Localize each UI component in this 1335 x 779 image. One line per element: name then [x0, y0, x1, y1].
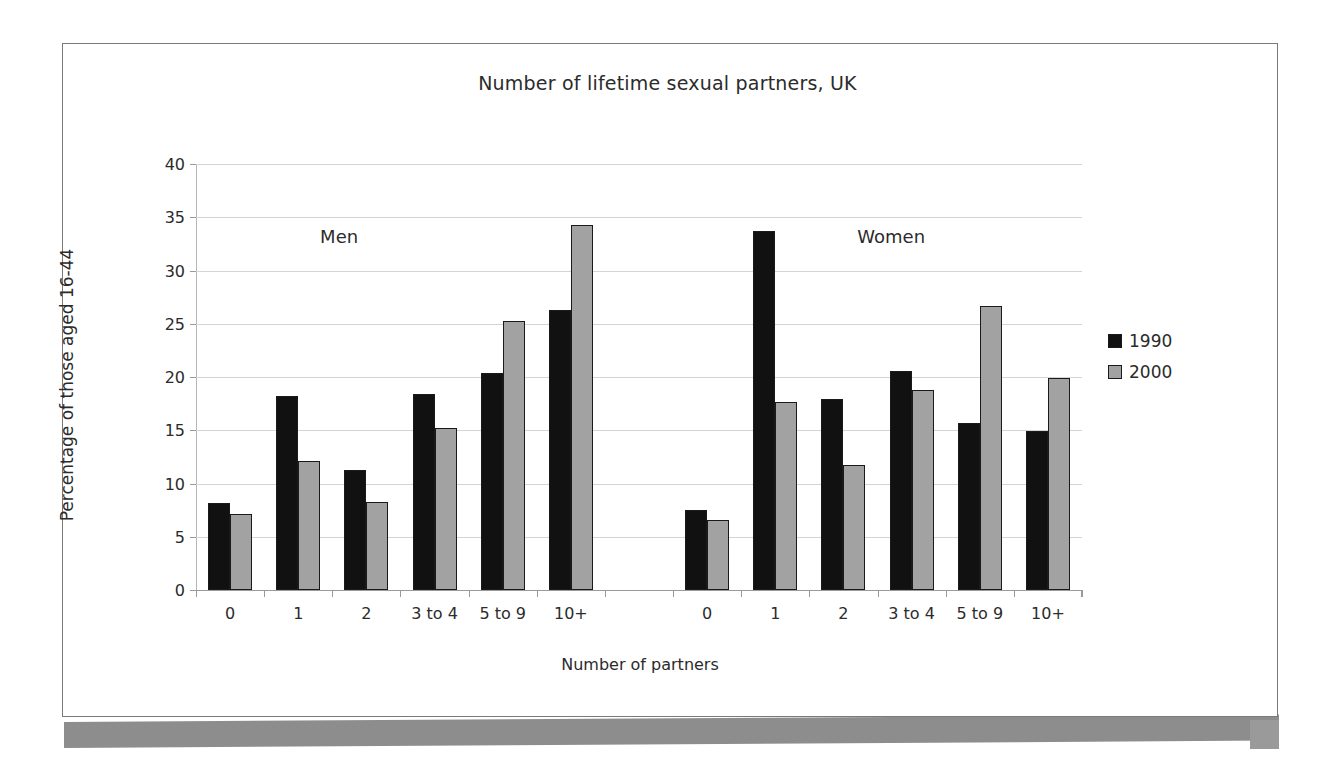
x-tick-mark — [469, 590, 470, 597]
plot-area: 0510152025303540 0123 to 45 to 910+0123 … — [196, 164, 1082, 590]
legend-label: 2000 — [1129, 362, 1172, 382]
x-tick-mark — [332, 590, 333, 597]
y-tick-mark — [190, 537, 196, 538]
y-tick-mark — [190, 484, 196, 485]
bar-men-2-1990 — [344, 470, 366, 590]
y-tick-label: 20 — [165, 368, 185, 387]
bar-women-5-to-9-2000 — [980, 306, 1002, 590]
x-tick-label: 2 — [361, 604, 371, 623]
gridline — [196, 537, 1082, 538]
bar-women-3-to-4-1990 — [890, 371, 912, 590]
legend-label: 1990 — [1129, 331, 1172, 351]
scan-shadow-band — [64, 715, 1279, 748]
gridline — [196, 377, 1082, 378]
x-tick-label: 10+ — [1031, 604, 1065, 623]
bar-women-10+-2000 — [1048, 378, 1070, 590]
x-tick-mark — [878, 590, 879, 597]
x-tick-mark — [196, 590, 197, 597]
x-tick-label: 1 — [293, 604, 303, 623]
legend-item-1990[interactable]: 1990 — [1108, 332, 1172, 350]
bar-men-3-to-4-2000 — [435, 428, 457, 590]
gridline — [196, 324, 1082, 325]
y-tick-mark — [190, 271, 196, 272]
gridline — [196, 430, 1082, 431]
bar-men-1-2000 — [298, 461, 320, 590]
panel-caption-men: Men — [320, 226, 358, 247]
chart-legend: 19902000 — [1108, 332, 1172, 394]
x-tick-label: 5 to 9 — [956, 604, 1003, 623]
x-tick-mark — [809, 590, 810, 597]
y-axis-title: Percentage of those aged 16-44 — [57, 225, 77, 545]
y-tick-label: 25 — [165, 314, 185, 333]
y-tick-mark — [190, 217, 196, 218]
x-tick-mark — [1014, 590, 1015, 597]
x-tick-mark — [537, 590, 538, 597]
bar-women-1-1990 — [753, 231, 775, 590]
y-tick-label: 0 — [175, 581, 185, 600]
x-tick-mark — [400, 590, 401, 597]
x-tick-label: 3 to 4 — [888, 604, 935, 623]
bar-women-10+-1990 — [1026, 431, 1048, 590]
bar-men-1-1990 — [276, 396, 298, 590]
bar-men-3-to-4-1990 — [413, 394, 435, 590]
x-tick-mark — [1081, 590, 1082, 597]
x-tick-label: 0 — [702, 604, 712, 623]
gridline — [196, 590, 1082, 591]
x-tick-mark — [1082, 590, 1083, 597]
x-axis-title: Number of partners — [190, 655, 1090, 674]
scan-shadow-edge — [1250, 720, 1279, 749]
y-tick-mark — [190, 430, 196, 431]
bar-women-0-1990 — [685, 510, 707, 590]
bar-men-2-2000 — [366, 502, 388, 590]
y-tick-mark — [190, 377, 196, 378]
gridline — [196, 271, 1082, 272]
gridline — [196, 164, 1082, 165]
legend-swatch-icon — [1108, 365, 1122, 379]
legend-item-2000[interactable]: 2000 — [1108, 363, 1172, 381]
x-tick-mark — [264, 590, 265, 597]
x-tick-label: 3 to 4 — [411, 604, 458, 623]
bar-men-5-to-9-2000 — [503, 321, 525, 590]
bar-women-0-2000 — [707, 520, 729, 590]
x-tick-mark — [673, 590, 674, 597]
bar-men-10+-2000 — [571, 225, 593, 590]
bar-men-5-to-9-1990 — [481, 373, 503, 590]
y-tick-label: 35 — [165, 208, 185, 227]
x-tick-label: 1 — [770, 604, 780, 623]
y-tick-label: 10 — [165, 474, 185, 493]
x-tick-mark — [946, 590, 947, 597]
bar-women-3-to-4-2000 — [912, 390, 934, 590]
bar-men-0-1990 — [208, 503, 230, 590]
x-tick-label: 10+ — [554, 604, 588, 623]
panel-caption-women: Women — [857, 226, 925, 247]
y-tick-mark — [190, 324, 196, 325]
y-tick-label: 5 — [175, 527, 185, 546]
gridline — [196, 484, 1082, 485]
x-tick-label: 0 — [225, 604, 235, 623]
x-tick-label: 5 to 9 — [479, 604, 526, 623]
bar-women-5-to-9-1990 — [958, 423, 980, 590]
chart-title: Number of lifetime sexual partners, UK — [0, 72, 1335, 94]
gridline — [196, 217, 1082, 218]
bar-women-2-2000 — [843, 465, 865, 590]
y-tick-mark — [190, 164, 196, 165]
x-tick-mark — [605, 590, 606, 597]
bar-men-10+-1990 — [549, 310, 571, 590]
legend-swatch-icon — [1108, 334, 1122, 348]
bar-men-0-2000 — [230, 514, 252, 590]
bar-women-1-2000 — [775, 402, 797, 591]
y-tick-label: 40 — [165, 155, 185, 174]
y-tick-label: 15 — [165, 421, 185, 440]
bar-women-2-1990 — [821, 399, 843, 590]
y-tick-label: 30 — [165, 261, 185, 280]
x-tick-label: 2 — [838, 604, 848, 623]
x-tick-mark — [741, 590, 742, 597]
